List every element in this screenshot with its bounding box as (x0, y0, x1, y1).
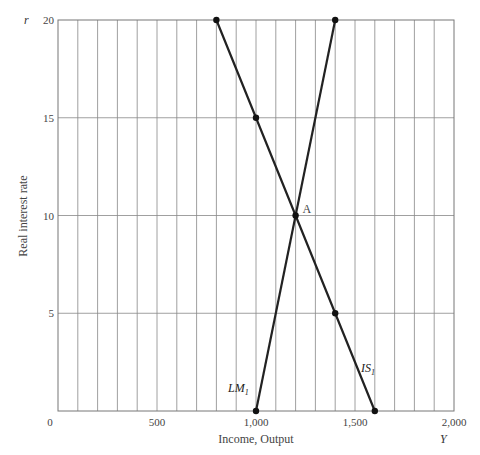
y-axis-symbol: r (24, 13, 29, 27)
x-tick-label: 1,000 (244, 416, 269, 428)
data-point (253, 115, 259, 121)
equilibrium-point-label: A (303, 202, 312, 216)
x-axis-symbol: Y (440, 432, 448, 446)
is-curve-label: IS1 (360, 361, 375, 377)
y-tick-label: 10 (43, 210, 55, 222)
y-tick-labels: 5101520 (43, 14, 55, 319)
grid-lines (58, 20, 454, 411)
x-tick-label: 500 (149, 416, 166, 428)
x-tick-label: 0 (47, 416, 53, 428)
y-axis-label: Real interest rate (16, 175, 30, 256)
data-point (253, 408, 259, 414)
lm-curve-label: LM1 (227, 381, 249, 397)
y-tick-label: 20 (43, 14, 55, 26)
data-point (372, 408, 378, 414)
data-point (213, 17, 219, 23)
y-tick-label: 5 (49, 307, 55, 319)
data-point (332, 17, 338, 23)
y-tick-label: 15 (43, 112, 55, 124)
x-tick-label: 2,000 (442, 416, 467, 428)
x-tick-labels: 05001,0001,5002,000 (47, 416, 467, 428)
x-tick-label: 1,500 (343, 416, 368, 428)
data-point (292, 212, 298, 218)
x-axis-label: Income, Output (218, 432, 294, 446)
data-point (332, 310, 338, 316)
islm-chart: 05001,0001,5002,000 5101520 r Y Income, … (0, 0, 480, 455)
